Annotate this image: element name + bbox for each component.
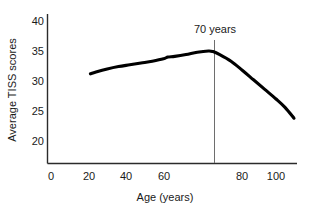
y-tick-label-35: 35 <box>32 45 44 57</box>
y-tick-label-20: 20 <box>32 135 44 147</box>
x-axis-title: Age (years) <box>137 191 194 203</box>
x-tick-label-60: 60 <box>158 170 170 182</box>
y-tick-label-25: 25 <box>32 105 44 117</box>
chart-background <box>0 0 311 212</box>
chart-container: Average TISS scores 40 35 30 25 20 0 20 … <box>0 0 311 212</box>
tiss-score-line-chart: Average TISS scores 40 35 30 25 20 0 20 … <box>0 0 311 212</box>
x-tick-label-40: 40 <box>120 170 132 182</box>
y-tick-label-30: 30 <box>32 75 44 87</box>
annotation-label-70-years: 70 years <box>194 23 237 35</box>
x-tick-label-0: 0 <box>48 170 54 182</box>
y-tick-label-40: 40 <box>32 15 44 27</box>
x-tick-label-100: 100 <box>267 170 285 182</box>
x-tick-label-80: 80 <box>236 170 248 182</box>
x-tick-label-20: 20 <box>83 170 95 182</box>
y-axis-title: Average TISS scores <box>6 38 18 142</box>
